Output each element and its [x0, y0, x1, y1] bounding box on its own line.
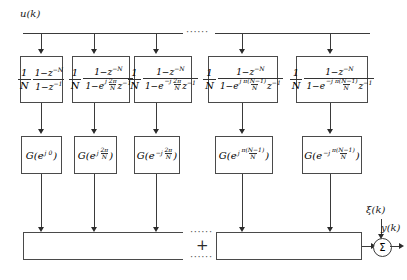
comb-2-denominator: 1−e−j2πNz−1	[143, 78, 198, 93]
comb-1-denominator: 1−ej2πNz−1	[83, 78, 133, 93]
comb-filter-block-1[interactable]: 1 N 1−z−N 1−ej2πNz−1	[72, 56, 130, 103]
arrow-comb-3-to-gain-3	[239, 129, 245, 134]
drop-comb-0-to-gain-0	[41, 103, 42, 130]
arrow-bus-to-comb-2	[153, 49, 159, 54]
comb-1-transfer: 1−z−N 1−ej2πNz−1	[83, 66, 133, 93]
comb-filter-block-0[interactable]: 1 N 1−z−N 1−z−1	[20, 56, 63, 103]
gain-0-expression: G(ej0)	[26, 150, 57, 161]
input-bus-left	[23, 33, 183, 34]
comb-0-gain: 1 N	[18, 68, 31, 92]
gain-4-expression: G(e−jπ(N−1)N)	[304, 149, 359, 162]
arrow-comb-0-to-gain-0	[38, 129, 44, 134]
arrow-bus-to-comb-3	[239, 49, 245, 54]
input-bus-left-cap	[23, 33, 24, 34]
comb-2-gain: 1 N	[128, 68, 141, 92]
arrow-output	[399, 243, 404, 249]
input-signal-label: u(k)	[20, 8, 40, 19]
drop-gain-3-to-adder	[242, 174, 243, 228]
adder-ellipsis-bottom: ······	[190, 251, 213, 262]
arrow-comb-1-to-gain-1	[91, 129, 97, 134]
gain-block-2[interactable]: G(e−j2πN)	[134, 136, 180, 174]
arrow-bus-to-comb-0	[38, 49, 44, 54]
sigma-symbol: Σ	[379, 242, 385, 253]
drop-comb-4-to-gain-4	[330, 103, 331, 130]
comb-4-exponent: −j	[325, 78, 334, 84]
comb-filter-block-3[interactable]: 1 N 1−z−N 1−ejπ(N−1)Nz−1	[208, 56, 278, 103]
output-signal-label: y(k)	[381, 222, 401, 233]
comb-3-transfer: 1−z−N 1−ejπ(N−1)Nz−1	[218, 66, 283, 93]
input-bus-right	[215, 33, 370, 34]
summing-junction[interactable]: Σ	[373, 238, 392, 257]
arrow-bus-to-comb-4	[327, 49, 333, 54]
arrow-comb-4-to-gain-4	[327, 129, 333, 134]
block-diagram-canvas: u(k) ······ 1 N 1−z−N 1−z−1 1	[0, 0, 407, 280]
drop-gain-4-to-adder	[330, 174, 331, 228]
comb-0-denominator: 1−z−1	[33, 79, 64, 92]
drop-gain-0-to-adder	[41, 174, 42, 228]
noise-signal-label: ξ(k)	[366, 204, 385, 215]
arrow-bus-to-comb-1	[91, 49, 97, 54]
comb-filter-block-2[interactable]: 1 N 1−z−N 1−e−j2πNz−1	[134, 56, 192, 103]
drop-bus-to-comb-0	[41, 33, 42, 50]
comb-2-transfer: 1−z−N 1−e−j2πNz−1	[143, 66, 198, 93]
comb-4-denominator: 1−e−jπ(N−1)Nz−1	[304, 78, 374, 93]
input-bus-ellipsis: ······	[186, 26, 209, 37]
drop-bus-to-comb-1	[94, 33, 95, 50]
gain-3-expression: G(ejπ(N−1)N)	[219, 149, 269, 162]
adder-bar-left	[23, 232, 183, 260]
gain-1-expression: G(ej2πN)	[78, 149, 113, 162]
adder-bar-right	[216, 232, 362, 260]
drop-bus-to-comb-2	[156, 33, 157, 50]
drop-comb-3-to-gain-3	[242, 103, 243, 130]
drop-bus-to-comb-3	[242, 33, 243, 50]
drop-comb-2-to-gain-2	[156, 103, 157, 130]
comb-0-numerator: 1−z−N	[33, 67, 65, 79]
comb-3-denominator: 1−ejπ(N−1)Nz−1	[218, 78, 283, 93]
comb-4-gain: 1 N	[290, 68, 303, 92]
gain-block-4[interactable]: G(e−jπ(N−1)N)	[302, 136, 362, 174]
comb-1-gain: 1 N	[69, 68, 82, 92]
arrow-comb-2-to-gain-2	[153, 129, 159, 134]
drop-gain-2-to-adder	[156, 174, 157, 228]
gain-block-0[interactable]: G(ej0)	[21, 136, 62, 174]
gain-2-expression: G(e−j2πN)	[137, 149, 177, 162]
drop-gain-1-to-adder	[94, 174, 95, 228]
drop-bus-to-comb-4	[330, 33, 331, 50]
comb-4-transfer: 1−z−N 1−e−jπ(N−1)Nz−1	[304, 66, 374, 93]
gain-block-1[interactable]: G(ej2πN)	[74, 136, 117, 174]
drop-comb-1-to-gain-1	[94, 103, 95, 130]
comb-0-transfer: 1−z−N 1−z−1	[33, 67, 65, 93]
comb-2-exponent: −j	[163, 78, 172, 84]
comb-filter-block-4[interactable]: 1 N 1−z−N 1−e−jπ(N−1)Nz−1	[296, 56, 368, 103]
gain-block-3[interactable]: G(ejπ(N−1)N)	[215, 136, 273, 174]
comb-3-gain: 1 N	[203, 68, 216, 92]
